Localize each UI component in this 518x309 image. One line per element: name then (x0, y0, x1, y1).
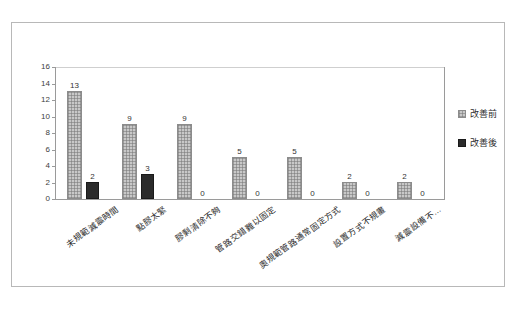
y-tickmark-8 (52, 133, 55, 134)
bar-before-1 (67, 91, 82, 199)
plot-top-border (55, 67, 445, 68)
y-tickmark-16 (52, 67, 55, 68)
bar-label-before-3: 9 (174, 115, 195, 123)
bar-before-4 (232, 157, 247, 199)
y-tickmark-0 (52, 199, 55, 200)
y-tick-12: 12 (26, 96, 50, 104)
plot-right-border (444, 67, 445, 200)
y-tick-16: 16 (26, 63, 50, 71)
legend-item-after: 改善後 (458, 136, 518, 149)
y-tick-10: 10 (26, 113, 50, 121)
y-tickmark-12 (52, 100, 55, 101)
legend-item-before: 改善前 (458, 107, 518, 120)
bar-label-before-2: 9 (119, 115, 140, 123)
bar-label-before-1: 13 (64, 82, 85, 90)
bar-label-before-7: 2 (394, 173, 415, 181)
bar-before-3 (177, 124, 192, 199)
bar-before-6 (342, 182, 357, 199)
y-tickmark-4 (52, 166, 55, 167)
bar-label-before-6: 2 (339, 173, 360, 181)
legend-swatch-before-icon (458, 110, 466, 118)
bar-before-7 (397, 182, 412, 199)
y-tick-4: 4 (26, 162, 50, 170)
bar-label-after-7: 0 (412, 190, 433, 198)
x-category-label-2: 點膠太緊 (114, 204, 168, 247)
bar-before-2 (122, 124, 137, 199)
bar-label-after-1: 2 (82, 173, 103, 181)
y-tick-14: 14 (26, 80, 50, 88)
x-axis-line (55, 199, 445, 200)
legend-swatch-after-icon (458, 139, 466, 147)
bar-label-before-4: 5 (229, 148, 250, 156)
y-tick-0: 0 (26, 195, 50, 203)
legend-label-before: 改善前 (470, 107, 497, 120)
bar-label-before-5: 5 (284, 148, 305, 156)
chart-legend: 改善前 改善後 (458, 107, 518, 165)
y-axis-line (55, 67, 56, 200)
y-tickmark-10 (52, 117, 55, 118)
bar-label-after-5: 0 (302, 190, 323, 198)
legend-label-after: 改善後 (470, 136, 497, 149)
y-tick-2: 2 (26, 179, 50, 187)
bar-label-after-3: 0 (192, 190, 213, 198)
bar-after-2 (141, 174, 154, 199)
plot-area: 16 14 12 10 8 6 4 2 0 13 2 (55, 67, 445, 200)
y-tick-6: 6 (26, 146, 50, 154)
y-tick-8: 8 (26, 129, 50, 137)
y-tickmark-2 (52, 183, 55, 184)
bar-after-1 (86, 182, 99, 199)
y-tickmark-6 (52, 150, 55, 151)
bar-label-after-6: 0 (357, 190, 378, 198)
bar-before-5 (287, 157, 302, 199)
screenshot-canvas: 16 14 12 10 8 6 4 2 0 13 2 (0, 0, 518, 309)
chart-frame: 16 14 12 10 8 6 4 2 0 13 2 (11, 22, 505, 287)
bar-label-after-4: 0 (247, 190, 268, 198)
bar-label-after-2: 3 (137, 165, 158, 173)
x-category-label-1: 未規範減震時間 (50, 204, 121, 259)
y-tickmark-14 (52, 84, 55, 85)
